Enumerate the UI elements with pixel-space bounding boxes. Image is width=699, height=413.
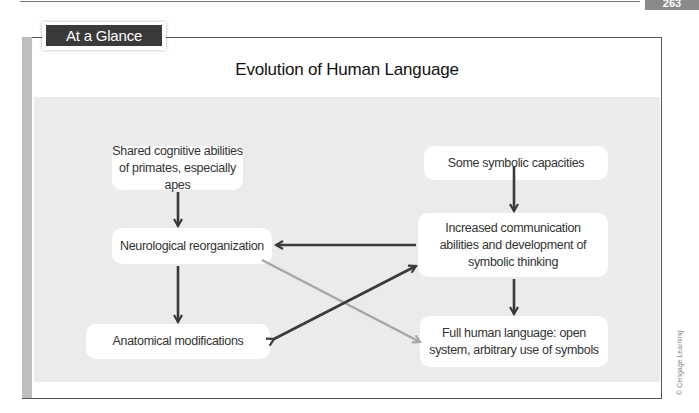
credit-text: © Cengage Learning [676, 330, 683, 395]
arrow-neuro-to-language [262, 260, 420, 342]
arrows-layer [0, 0, 699, 413]
